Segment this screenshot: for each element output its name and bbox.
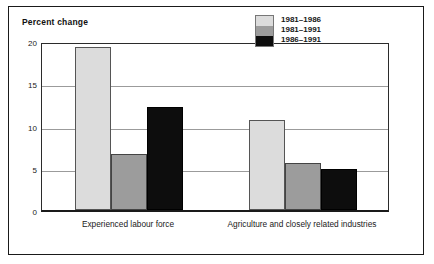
bars-layer (42, 44, 388, 210)
x-axis-category-label: Agriculture and closely related industri… (228, 219, 377, 229)
legend-label: 1986–1991 (281, 35, 321, 45)
legend-label: 1981–1991 (281, 25, 321, 35)
bar (321, 169, 357, 210)
y-axis-tick-label: 10 (28, 123, 37, 132)
bar (111, 154, 147, 210)
x-axis-category-label: Experienced labour force (82, 219, 174, 229)
legend-swatch (256, 26, 273, 36)
chart-title: Percent change (22, 17, 88, 27)
bar (147, 107, 183, 210)
bar (249, 120, 285, 210)
bar (75, 47, 111, 210)
y-axis-tick-label: 5 (33, 165, 37, 174)
x-axis-category-labels: Experienced labour forceAgriculture and … (41, 219, 389, 235)
chart-legend: 1981–19861981–19911986–1991 (255, 15, 321, 47)
legend-swatches (255, 15, 274, 47)
y-axis-tick-labels: 05101520 (17, 43, 37, 212)
y-axis-tick-label: 15 (28, 81, 37, 90)
legend-swatch (256, 16, 273, 26)
chart-figure: Percent change 05101520 1981–19861981–19… (8, 6, 424, 255)
plot-area (41, 43, 389, 212)
legend-labels: 1981–19861981–19911986–1991 (281, 15, 321, 45)
legend-label: 1981–1986 (281, 15, 321, 25)
y-axis-tick-label: 0 (33, 208, 37, 217)
bar (285, 163, 321, 210)
legend-swatch (256, 36, 273, 46)
y-axis-tick-label: 20 (28, 39, 37, 48)
